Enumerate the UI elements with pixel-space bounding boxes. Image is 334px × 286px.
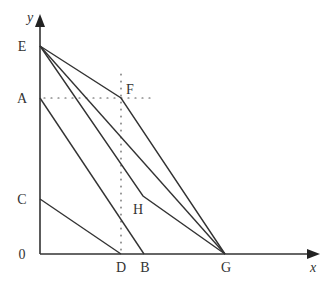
x-axis-label: x (309, 260, 317, 275)
diagram-canvas: y x 0 E A C F H D B G (0, 0, 334, 286)
dotted-guides (44, 74, 150, 250)
segment-C-D (40, 199, 121, 254)
point-label-H: H (133, 202, 143, 217)
point-label-B: B (140, 260, 149, 275)
point-label-A: A (17, 91, 28, 106)
segments (40, 46, 225, 254)
axes (35, 14, 320, 259)
y-axis-label: y (25, 10, 34, 25)
point-label-F: F (126, 82, 134, 97)
point-label-G: G (221, 260, 231, 275)
origin-label: 0 (19, 247, 26, 262)
point-label-C: C (17, 192, 26, 207)
segment-E-G (40, 46, 225, 254)
point-label-D: D (116, 260, 126, 275)
x-axis-arrow-icon (307, 249, 320, 259)
y-axis-arrow-icon (35, 14, 45, 27)
point-label-E: E (18, 39, 27, 54)
